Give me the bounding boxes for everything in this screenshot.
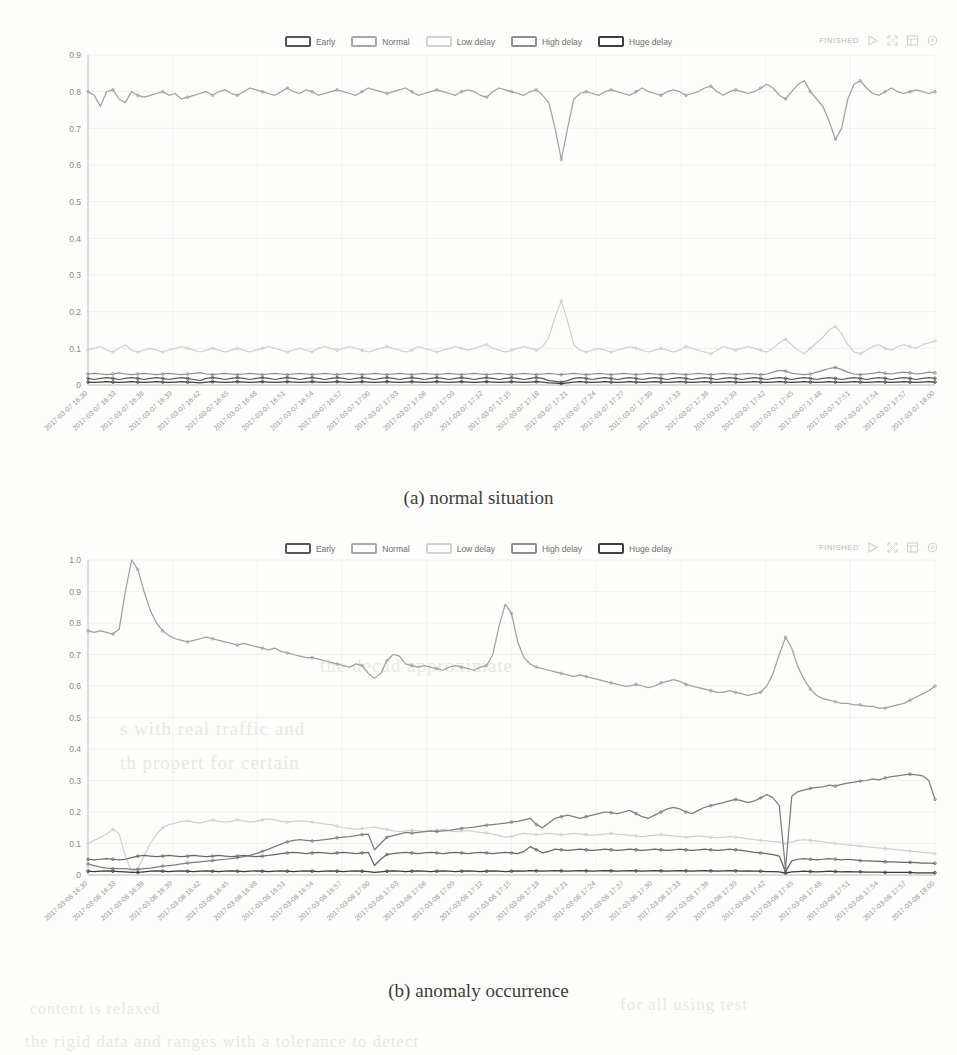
y-axis-tick-label: 0.2	[69, 807, 81, 817]
y-axis-tick-label: 0.8	[69, 618, 81, 628]
y-axis-tick-label: 0	[76, 380, 81, 390]
y-axis-tick-label: 0.9	[69, 50, 81, 60]
y-axis-tick-label: 1.0	[69, 555, 81, 565]
y-axis-tick-label: 0.7	[69, 124, 81, 134]
bleedthrough-text: the rigid data and ranges with a toleran…	[25, 1032, 419, 1052]
y-axis-tick-label: 0.9	[69, 587, 81, 597]
plot-svg: 00.10.20.30.40.50.60.70.80.91.02017-03-0…	[0, 530, 957, 970]
y-axis-tick-label: 0.3	[69, 776, 81, 786]
y-axis-tick-label: 0.3	[69, 270, 81, 280]
chart-b-container[interactable]: EarlyNormalLow delayHigh delayHuge delay…	[0, 530, 957, 970]
y-axis-tick-label: 0.4	[69, 234, 81, 244]
figure-a: EarlyNormalLow delayHigh delayHuge delay…	[0, 0, 957, 530]
y-axis-tick-label: 0	[76, 870, 81, 880]
figure-b-caption: (b) anomaly occurrence	[0, 980, 957, 1002]
figure-a-caption: (a) normal situation	[0, 487, 957, 509]
y-axis-tick-label: 0.5	[69, 197, 81, 207]
y-axis-tick-label: 0.4	[69, 744, 81, 754]
y-axis-tick-label: 0.1	[69, 839, 81, 849]
y-axis-tick-label: 0.6	[69, 681, 81, 691]
chart-a-container[interactable]: EarlyNormalLow delayHigh delayHuge delay…	[0, 0, 957, 480]
chart-a-plot[interactable]: 00.10.20.30.40.50.60.70.80.92017-03-07 1…	[0, 0, 957, 480]
chart-b-plot[interactable]: 00.10.20.30.40.50.60.70.80.91.02017-03-0…	[0, 530, 957, 970]
plot-svg: 00.10.20.30.40.50.60.70.80.92017-03-07 1…	[0, 0, 957, 480]
y-axis-tick-label: 0.7	[69, 650, 81, 660]
y-axis-tick-label: 0.8	[69, 87, 81, 97]
y-axis-tick-label: 0.2	[69, 307, 81, 317]
y-axis-tick-label: 0.6	[69, 160, 81, 170]
y-axis-tick-label: 0.1	[69, 344, 81, 354]
figure-b: EarlyNormalLow delayHigh delayHuge delay…	[0, 530, 957, 1025]
y-axis-tick-label: 0.5	[69, 713, 81, 723]
